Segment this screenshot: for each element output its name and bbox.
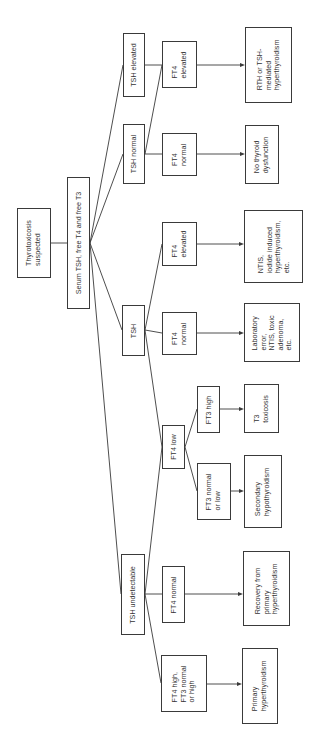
node-serum-tests: Serum TSH, free T4 and free T3 <box>67 177 90 309</box>
outcome-ntis-iodide: NTIS, iodide induced hyperthyroidism, et… <box>244 210 303 283</box>
node-thyrotoxicosis-suspected: Thyrotoxicosis suspected <box>17 208 51 278</box>
node-label: Laboratory error, NTIS, toxic adenoma, e… <box>251 315 294 350</box>
connector-lines <box>0 0 321 743</box>
node-label: T3 toxicosis <box>253 395 270 423</box>
node-label: Thyrotoxicosis suspected <box>25 220 42 266</box>
node-label: TSH elevated <box>130 43 139 87</box>
node-label: FT4 normal <box>171 323 188 345</box>
outcome-t3-toxicosis: T3 toxicosis <box>244 384 279 433</box>
node-ft4-high-ft3-normal-or-high: FT4 high, FT3 normal or high <box>161 655 207 712</box>
node-tsh-normal: TSH normal <box>123 124 145 184</box>
outcome-laboratory-error: Laboratory error, NTIS, toxic adenoma, e… <box>244 303 300 362</box>
node-ft4-normal-3: FT4 normal <box>162 566 185 623</box>
outcome-recovery-primary: Recovery from primary hyperthyroidism <box>243 551 290 626</box>
node-label: TSH normal <box>130 135 139 173</box>
node-label: Recovery from primary hyperthyroidism <box>254 563 280 614</box>
node-label: Primary hyperthyroidism <box>251 661 268 712</box>
node-label: FT4 elevated <box>171 230 188 257</box>
outcome-rth-tsh-mediated: RTH or TSH- mediated hyperthyroidism <box>245 27 292 103</box>
flowchart-canvas: Thyrotoxicosis suspected Serum TSH, free… <box>0 0 321 743</box>
node-ft4-elevated-2: FT4 elevated <box>162 222 197 266</box>
node-label: No thyroid dysfunction <box>253 136 270 172</box>
node-ft3-high: FT3 high <box>197 386 220 433</box>
node-label: Secondary hypothyroidism <box>254 467 271 515</box>
outcome-primary-hyperthyroidism: Primary hyperthyroidism <box>242 648 278 724</box>
node-label: NTIS, iodide induced hyperthyroidism, et… <box>256 220 290 273</box>
node-label: FT4 normal <box>171 144 188 166</box>
outcome-secondary-hypothyroidism: Secondary hypothyroidism <box>244 455 282 528</box>
node-label: FT4 high, FT3 normal or high <box>171 665 197 702</box>
node-ft4-elevated-1: FT4 elevated <box>162 41 197 88</box>
node-ft4-normal-2: FT4 normal <box>162 312 197 355</box>
node-ft4-normal-1: FT4 normal <box>162 133 197 176</box>
node-label: TSH <box>129 323 138 337</box>
node-label: FT4 elevated <box>171 51 188 78</box>
node-tsh: TSH <box>122 305 145 356</box>
node-tsh-undetectable: TSH undetectable <box>121 554 145 635</box>
node-label: FT3 normal or low <box>205 473 222 510</box>
node-label: FT3 high <box>204 395 213 423</box>
node-label: Serum TSH, free T4 and free T3 <box>74 192 83 295</box>
node-ft3-normal-or-low: FT3 normal or low <box>197 463 231 520</box>
node-ft4-low: FT4 low <box>162 425 185 469</box>
node-label: FT4 low <box>169 434 178 460</box>
node-tsh-elevated: TSH elevated <box>123 33 145 97</box>
node-label: RTH or TSH- mediated hyperthyroidism <box>256 40 282 91</box>
node-label: TSH undetectable <box>129 566 138 624</box>
node-label: FT4 normal <box>169 576 178 613</box>
outcome-no-thyroid-dysfunction: No thyroid dysfunction <box>245 125 279 184</box>
